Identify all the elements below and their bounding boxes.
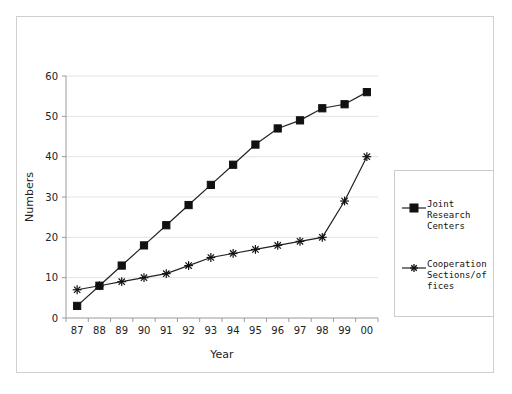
y-tick-label: 30 xyxy=(45,192,58,203)
data-point-marker xyxy=(296,117,303,124)
data-point-marker xyxy=(273,241,282,250)
data-point-marker xyxy=(140,242,147,249)
x-tick-label: 00 xyxy=(360,325,373,336)
x-tick-label: 93 xyxy=(204,325,217,336)
x-tick-label: 89 xyxy=(115,325,128,336)
data-point-marker xyxy=(319,105,326,112)
y-axis-title: Numbers xyxy=(23,172,36,222)
square-marker xyxy=(401,199,427,211)
x-tick-label: 87 xyxy=(71,325,84,336)
data-point-marker xyxy=(207,181,214,188)
data-point-marker xyxy=(140,273,149,282)
data-point-marker xyxy=(230,161,237,168)
y-tick-label: 50 xyxy=(45,111,58,122)
data-point-marker xyxy=(340,197,349,206)
data-point-marker xyxy=(252,141,259,148)
data-point-marker xyxy=(184,261,193,270)
x-tick-label: 91 xyxy=(160,325,173,336)
data-point-marker xyxy=(95,281,104,290)
data-point-marker xyxy=(117,277,126,286)
data-point-marker xyxy=(274,125,281,132)
x-tick-labels-group: 8788899091929394959697989900 xyxy=(71,325,373,336)
x-axis-title: Year xyxy=(209,348,234,361)
data-point-marker xyxy=(118,262,125,269)
y-tick-label: 10 xyxy=(45,272,58,283)
x-tick-label: 92 xyxy=(182,325,195,336)
data-point-marker xyxy=(318,233,327,242)
legend-line-1: Sections/of xyxy=(427,270,487,280)
x-tick-label: 90 xyxy=(138,325,151,336)
data-point-marker xyxy=(206,253,215,262)
data-point-marker xyxy=(296,237,305,246)
y-tick-label: 40 xyxy=(45,151,58,162)
legend-label-joint-research-centers: JointResearchCenters xyxy=(427,199,470,232)
series-line xyxy=(77,92,367,306)
data-point-marker xyxy=(341,101,348,108)
y-tick-label: 20 xyxy=(45,232,58,243)
y-tick-labels-group: 0102030405060 xyxy=(45,71,58,324)
x-tick-label: 95 xyxy=(249,325,262,336)
data-point-marker xyxy=(185,201,192,208)
legend-line-0: Joint xyxy=(427,199,454,209)
chart-legend: JointResearchCenters CooperationSections… xyxy=(394,170,494,317)
legend-entry-joint-research-centers[interactable]: JointResearchCenters xyxy=(401,199,470,232)
legend-entry-cooperation-sections-offices[interactable]: CooperationSections/offices xyxy=(401,259,487,292)
tickmarks-group xyxy=(62,76,378,322)
x-tick-label: 88 xyxy=(93,325,106,336)
data-point-marker xyxy=(162,269,171,278)
data-point-marker xyxy=(74,302,81,309)
data-point-marker xyxy=(251,245,260,254)
series-cooperation-sections-offices xyxy=(73,152,372,294)
x-tick-label: 98 xyxy=(316,325,329,336)
chart-figure: 0102030405060 87888990919293949596979899… xyxy=(0,0,512,394)
asterisk-marker xyxy=(401,259,427,271)
legend-label-cooperation-sections-offices: CooperationSections/offices xyxy=(427,259,487,292)
x-tick-label: 99 xyxy=(338,325,351,336)
legend-line-2: fices xyxy=(427,281,454,291)
data-point-marker xyxy=(362,152,371,161)
data-point-marker xyxy=(229,249,238,258)
data-point-marker xyxy=(163,222,170,229)
data-point-marker xyxy=(363,89,370,96)
y-tick-label: 60 xyxy=(45,71,58,82)
legend-line-0: Cooperation xyxy=(427,259,487,269)
x-tick-label: 94 xyxy=(227,325,240,336)
x-tick-label: 97 xyxy=(294,325,307,336)
data-point-marker xyxy=(73,285,82,294)
y-tick-label: 0 xyxy=(52,313,58,324)
series-joint-research-centers xyxy=(74,89,371,310)
data-series-group xyxy=(73,89,372,310)
x-tick-label: 96 xyxy=(271,325,284,336)
legend-line-2: Centers xyxy=(427,221,465,231)
series-line xyxy=(77,157,367,290)
legend-line-1: Research xyxy=(427,210,470,220)
